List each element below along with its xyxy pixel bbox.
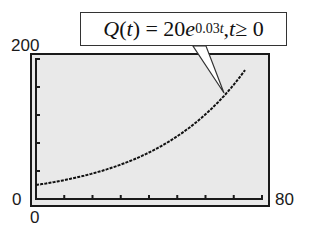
function-callout: Q(t) = 20e0.03t, t ≥ 0 — [80, 12, 287, 46]
exponent-rate: 0.03 — [195, 21, 220, 36]
e-symbol: e — [185, 16, 195, 42]
q-symbol: Q — [103, 16, 119, 42]
equals-part: ) = 20 — [133, 16, 186, 42]
condition: ≥ 0 — [235, 16, 264, 42]
plot-frame — [31, 54, 269, 206]
